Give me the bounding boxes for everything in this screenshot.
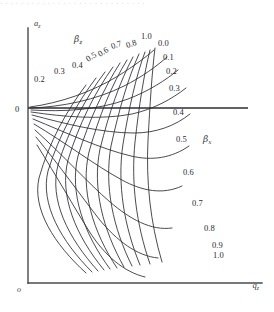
- contour-label: 0.6: [183, 167, 194, 177]
- contour-label: 0.0: [158, 38, 169, 48]
- beta-z-family-label: βz: [73, 34, 83, 45]
- contour-label: 0.7: [192, 198, 203, 208]
- contour-label: 0.5: [176, 134, 187, 144]
- contour-label: 0.7: [110, 38, 123, 51]
- y-axis-label: az: [34, 18, 41, 29]
- contour-label: 0.8: [125, 37, 138, 50]
- curve-family-beta-x: [38, 48, 162, 273]
- contour-label: 0.3: [54, 66, 65, 76]
- contour-label: 1.0: [213, 250, 224, 260]
- contour-label: 0.1: [163, 52, 174, 62]
- nomogram-plot: az qz o 0 βz βx 0.2 0.3 0.4 0.5 0.6 0.7 …: [0, 0, 274, 312]
- x-axis-label: qz: [253, 280, 260, 291]
- origin-label: o: [17, 285, 21, 294]
- contour-label: 0.6: [96, 45, 110, 59]
- contour-label: 0.8: [204, 223, 215, 233]
- contour-label: 0.3: [169, 83, 180, 93]
- contour-label: 0.9: [212, 240, 223, 250]
- beta-x-family-label: βx: [202, 134, 212, 145]
- curve-family-beta-z: [30, 50, 190, 277]
- figure-canvas: · · · · · · · · · · · · · · · · · · · · …: [0, 0, 274, 312]
- contour-label: 0.4: [173, 107, 184, 117]
- contour-label: 0.4: [72, 60, 83, 70]
- zero-tick-label: 0: [15, 104, 19, 114]
- contour-label: 0.2: [34, 74, 45, 84]
- contour-label: 1.0: [141, 31, 152, 41]
- contour-label: 0.2: [166, 66, 177, 76]
